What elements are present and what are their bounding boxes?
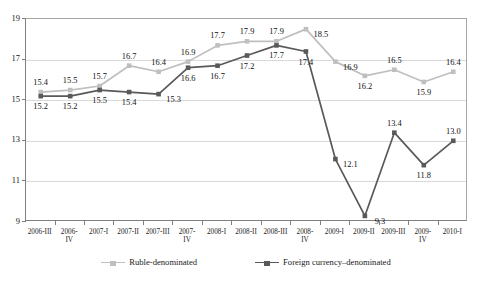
data-point-label: 15.5	[92, 96, 107, 105]
data-point-marker	[304, 49, 309, 54]
data-point-label: 16.7	[122, 51, 137, 60]
y-axis-tick-label: 11	[2, 176, 20, 185]
data-point-marker	[127, 90, 132, 95]
data-point-marker	[68, 94, 73, 99]
data-point-label: 18.5	[314, 30, 329, 39]
y-axis-tick-label: 13	[2, 135, 20, 144]
data-point-marker	[451, 139, 456, 144]
data-point-label: 15.4	[33, 78, 48, 87]
data-point-marker	[245, 39, 250, 44]
data-point-label: 17.2	[240, 61, 255, 70]
x-axis-category-label: 2010-I	[433, 228, 473, 236]
x-axis-tick-mark	[379, 221, 380, 225]
data-point-marker	[68, 88, 73, 93]
data-point-marker	[186, 65, 191, 70]
x-axis-tick-mark	[290, 221, 291, 225]
data-point-marker	[363, 214, 368, 219]
data-point-marker	[156, 69, 161, 74]
data-point-label: 16.5	[387, 55, 402, 64]
data-point-marker	[215, 43, 220, 48]
x-axis-tick-mark	[438, 221, 439, 225]
data-point-marker	[333, 157, 338, 162]
legend-swatch-icon	[101, 258, 125, 267]
x-axis-tick-mark	[261, 221, 262, 225]
x-axis-tick-mark	[143, 221, 144, 225]
data-point-label: 16.6	[181, 73, 196, 82]
data-point-marker	[127, 63, 132, 68]
data-point-marker	[156, 92, 161, 97]
data-point-marker	[392, 67, 397, 72]
legend-label: Ruble-denominated	[129, 258, 197, 267]
x-axis-tick-mark	[320, 221, 321, 225]
data-point-marker	[186, 59, 191, 64]
data-point-label: 17.9	[240, 27, 255, 36]
y-axis-tick-label: 17	[2, 54, 20, 63]
data-point-label: 15.5	[63, 76, 78, 85]
legend-item-foreign-currency[interactable]: Foreign currency–denominated	[255, 258, 391, 267]
x-axis-tick-mark	[202, 221, 203, 225]
data-point-label: 16.7	[210, 71, 225, 80]
legend-swatch-icon	[255, 258, 279, 267]
chart-legend: Ruble-denominatedForeign currency–denomi…	[0, 258, 492, 267]
data-point-label: 15.3	[166, 95, 181, 104]
data-point-label: 15.4	[122, 98, 137, 107]
data-point-label: 16.9	[181, 47, 196, 56]
data-point-label: 16.9	[343, 62, 358, 71]
data-point-marker	[245, 53, 250, 58]
x-axis-tick-mark	[408, 221, 409, 225]
data-point-marker	[97, 88, 102, 93]
data-point-label: 17.7	[210, 31, 225, 40]
y-axis-tick-label: 19	[2, 14, 20, 23]
data-point-marker	[38, 94, 43, 99]
data-point-label: 13.0	[446, 126, 461, 135]
chart-container: 19171513119 15.415.515.716.716.416.917.7…	[0, 0, 492, 289]
y-axis-tick-label: 15	[2, 95, 20, 104]
data-point-marker	[304, 27, 309, 32]
data-point-label: 15.2	[33, 102, 48, 111]
data-point-marker	[38, 90, 43, 95]
data-point-label: 16.2	[358, 81, 373, 90]
data-point-marker	[274, 43, 279, 48]
data-point-label: 16.4	[446, 57, 461, 66]
x-axis-tick-mark	[55, 221, 56, 225]
x-axis-tick-mark	[113, 221, 114, 225]
data-point-label: 11.8	[417, 171, 431, 180]
data-point-marker	[215, 63, 220, 68]
x-axis-tick-mark	[349, 221, 350, 225]
x-axis-tick-mark	[172, 221, 173, 225]
data-point-marker	[422, 80, 427, 85]
x-axis-tick-mark	[231, 221, 232, 225]
data-point-marker	[392, 130, 397, 135]
data-point-label: 15.9	[416, 87, 431, 96]
data-point-label: 15.2	[63, 102, 78, 111]
data-point-label: 15.7	[92, 72, 107, 81]
data-point-marker	[422, 163, 427, 168]
data-point-label: 16.4	[151, 57, 166, 66]
legend-item-ruble[interactable]: Ruble-denominated	[101, 258, 197, 267]
y-axis-tick-label: 9	[2, 217, 20, 226]
data-point-label: 13.4	[387, 118, 402, 127]
x-axis-tick-mark	[84, 221, 85, 225]
legend-label: Foreign currency–denominated	[283, 258, 391, 267]
data-point-marker	[333, 59, 338, 64]
data-point-label: 17.7	[269, 51, 284, 60]
plot-area: 15.415.515.716.716.416.917.717.917.918.5…	[25, 18, 467, 221]
data-point-label: 17.4	[299, 57, 314, 66]
data-point-label: 12.1	[343, 160, 358, 169]
data-point-marker	[97, 84, 102, 89]
data-point-label: 17.9	[269, 27, 284, 36]
data-point-marker	[274, 39, 279, 44]
data-point-marker	[363, 74, 368, 79]
data-point-label: 9.3	[375, 216, 385, 225]
data-point-marker	[451, 69, 456, 74]
